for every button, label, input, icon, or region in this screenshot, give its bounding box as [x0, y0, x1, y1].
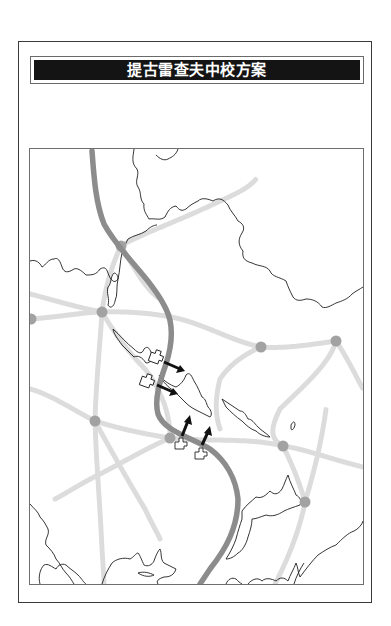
road — [275, 446, 305, 584]
arrow-icon — [182, 415, 192, 436]
bay-south — [138, 572, 154, 576]
coast-south-left — [39, 564, 86, 584]
unit-icon — [139, 372, 156, 389]
city-marker — [165, 433, 176, 444]
front-line — [92, 151, 238, 584]
city-marker — [97, 307, 108, 318]
border-north — [133, 149, 363, 308]
road — [95, 421, 160, 539]
border-north-spur — [156, 149, 178, 160]
road-network — [30, 179, 363, 584]
islet — [291, 422, 295, 430]
road — [95, 312, 104, 584]
city-marker — [300, 497, 311, 508]
road — [283, 446, 363, 467]
title-bar-background: 提古雷查夫中校方案 — [34, 60, 360, 80]
city-marker — [30, 314, 37, 325]
coast-southeast — [248, 521, 363, 584]
coast-bottom-mid — [226, 578, 242, 584]
operations-map — [30, 149, 363, 584]
unit-icon — [195, 448, 207, 459]
city-marker — [331, 336, 342, 347]
lake-3 — [222, 399, 270, 437]
road — [55, 438, 170, 499]
road — [30, 312, 336, 348]
coast-south-mid — [102, 549, 176, 584]
city-marker — [90, 416, 101, 427]
road — [336, 341, 363, 389]
title-bar: 提古雷查夫中校方案 — [30, 56, 364, 84]
map-panel — [29, 148, 364, 585]
coast-southwest — [30, 504, 74, 584]
city-marker — [278, 441, 289, 452]
road — [273, 341, 336, 446]
road — [30, 294, 102, 312]
map-title: 提古雷查夫中校方案 — [127, 63, 267, 78]
city-marker — [256, 342, 267, 353]
road — [216, 347, 261, 429]
